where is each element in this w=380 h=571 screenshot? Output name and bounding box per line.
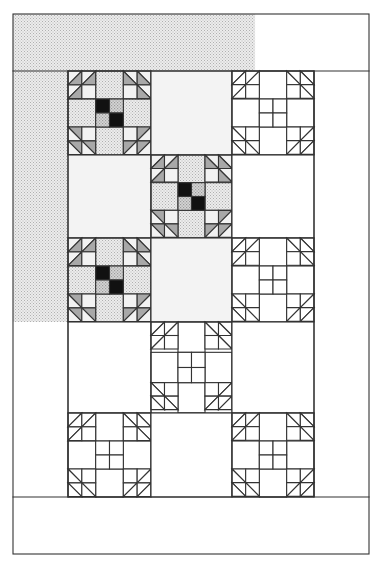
plain-setting-square [151,238,232,322]
shoofly-block [151,322,232,413]
plain-square [82,127,96,141]
edge-rectangle [232,441,259,469]
edge-rectangle [232,99,259,127]
edge-rectangle [96,238,124,266]
plain-square [205,169,219,183]
center-square [273,455,287,469]
center-square [96,99,110,113]
plain-square [123,469,137,483]
center-square [192,352,206,367]
edge-rectangle [96,413,124,441]
edge-rectangle [96,294,124,322]
shoofly-block [232,71,314,155]
center-square [96,455,110,469]
plain-square [287,427,301,441]
center-square [259,441,273,455]
header-border-shaded [13,14,255,71]
plain-square [123,85,137,99]
plain-square [287,127,301,141]
plain-square [246,469,260,483]
center-square [259,266,273,280]
center-square [178,197,192,211]
edge-rectangle [178,383,205,413]
plain-setting-square [68,322,151,413]
plain-setting-square [232,155,314,238]
edge-rectangle [123,99,151,127]
plain-square [205,383,219,397]
plain-square [246,427,260,441]
plain-square [123,427,137,441]
plain-block [232,322,314,413]
plain-setting-square [68,155,151,238]
plain-square [82,427,96,441]
center-square [110,441,124,455]
center-square [110,280,124,294]
plain-square [205,210,219,224]
center-square [192,183,206,197]
plain-square [82,85,96,99]
edge-rectangle [287,99,314,127]
center-square [96,441,110,455]
plain-square [165,169,179,183]
center-square [259,455,273,469]
block-layer [68,71,314,497]
edge-rectangle [205,183,232,211]
plain-square [165,336,179,350]
edge-rectangle [151,352,178,382]
center-square [259,113,273,127]
plain-square [123,294,137,308]
edge-rectangle [259,71,286,99]
center-square [178,368,192,383]
center-square [259,280,273,294]
center-square [96,266,110,280]
plain-block [68,322,151,413]
plain-square [205,336,219,350]
center-square [273,280,287,294]
left-border-shaded [13,71,68,322]
shoofly-block [68,71,151,155]
plain-square [287,252,301,266]
center-square [178,183,192,197]
plain-square [82,294,96,308]
edge-rectangle [259,294,286,322]
plain-square [246,294,260,308]
center-square [110,266,124,280]
edge-rectangle [68,441,96,469]
plain-square [246,252,260,266]
edge-rectangle [287,441,314,469]
shoofly-block [68,413,151,497]
edge-rectangle [68,266,96,294]
edge-rectangle [178,322,205,352]
center-square [192,368,206,383]
plain-square [82,469,96,483]
plain-block [68,155,151,238]
plain-square [246,127,260,141]
center-square [273,113,287,127]
shoofly-block [232,413,314,497]
center-square [96,113,110,127]
plain-square [123,127,137,141]
center-square [259,99,273,113]
edge-rectangle [96,127,124,155]
plain-square [287,469,301,483]
edge-rectangle [151,183,178,211]
plain-square [82,252,96,266]
edge-rectangle [178,210,205,238]
edge-rectangle [68,99,96,127]
center-square [273,99,287,113]
edge-rectangle [259,238,286,266]
center-square [110,99,124,113]
plain-block [232,155,314,238]
shoofly-block [151,155,232,238]
edge-rectangle [232,266,259,294]
plain-setting-square [151,71,232,155]
plain-square [287,294,301,308]
edge-rectangle [205,352,232,382]
center-square [273,266,287,280]
plain-square [246,85,260,99]
plain-block [151,413,232,497]
plain-setting-square [232,322,314,413]
plain-square [123,252,137,266]
center-square [178,352,192,367]
plain-square [165,383,179,397]
